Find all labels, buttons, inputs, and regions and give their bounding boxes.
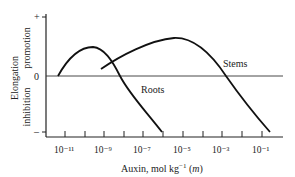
y-axis-label: Elongation [9,56,20,100]
x-tick-label: 10⁻¹ [252,145,270,155]
x-ticks [65,131,262,137]
roots-label: Roots [141,84,164,95]
y-axis-label-promotion: promotion [21,27,32,69]
stems-label: Stems [223,58,248,69]
y-tick-label-minus: – [33,126,40,137]
x-tick-labels: 10⁻¹¹ 10⁻⁹ 10⁻⁷ 10⁻⁵ 10⁻³ 10⁻¹ [54,145,270,155]
y-tick-label-zero: 0 [34,71,39,82]
auxin-elongation-chart: 10⁻¹¹ 10⁻⁹ 10⁻⁷ 10⁻⁵ 10⁻³ 10⁻¹ + 0 – Elo… [0,0,295,177]
y-axis-label-inhibition: inhibition [21,88,32,127]
x-tick-label: 10⁻⁷ [133,145,151,155]
x-axis-label: Auxin, mol kg−1 (m) [121,162,203,175]
x-tick-label: 10⁻¹¹ [54,145,74,155]
x-tick-label: 10⁻⁹ [94,145,113,155]
x-tick-label: 10⁻⁵ [173,145,191,155]
y-tick-label-plus: + [34,11,40,22]
x-tick-label: 10⁻³ [212,145,230,155]
